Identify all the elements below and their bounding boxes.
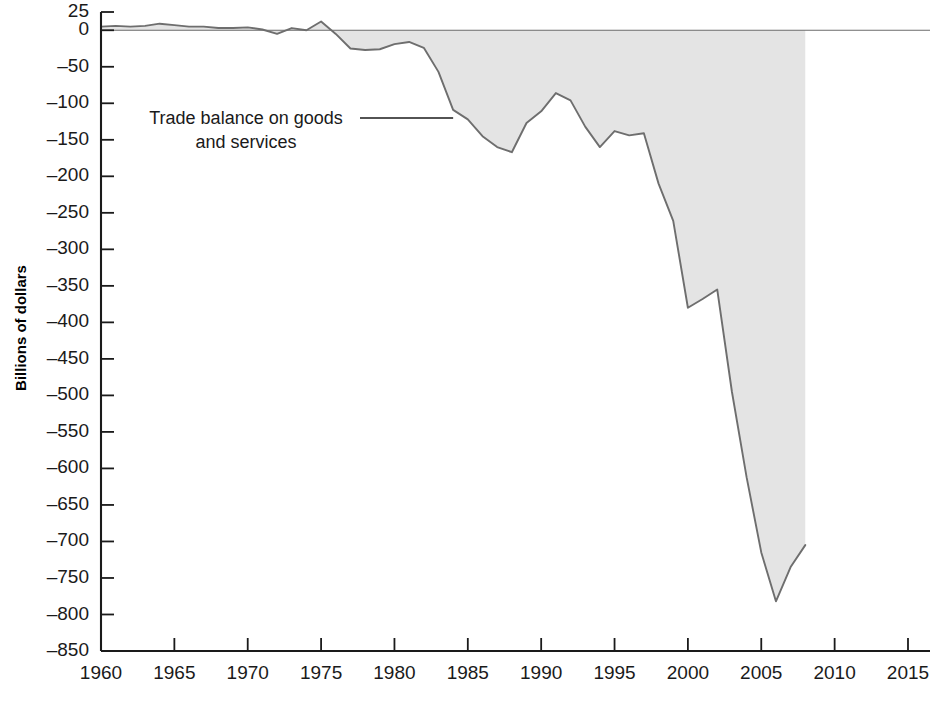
x-tick-label: 2015: [887, 662, 929, 683]
x-tick-label: 2000: [667, 662, 709, 683]
x-tick-label: 1965: [153, 662, 195, 683]
y-tick-label: 0: [78, 18, 89, 39]
y-tick-label: –750: [47, 566, 89, 587]
y-tick-label: –150: [47, 128, 89, 149]
annotation-line-2: and services: [195, 132, 296, 152]
x-tick-label: 1985: [447, 662, 489, 683]
trade-balance-area-chart: 250–50–100–150–200–250–300–350–400–450–5…: [0, 0, 942, 705]
annotation-line-1: Trade balance on goods: [149, 108, 342, 128]
y-tick-label: –50: [57, 55, 89, 76]
x-tick-label: 1970: [227, 662, 269, 683]
y-tick-label: –250: [47, 201, 89, 222]
y-tick-label: –800: [47, 603, 89, 624]
y-tick-label: –850: [47, 639, 89, 660]
y-tick-label: –500: [47, 383, 89, 404]
x-tick-label: 1960: [80, 662, 122, 683]
x-tick-label: 2005: [740, 662, 782, 683]
y-tick-label: –650: [47, 493, 89, 514]
y-tick-label: –600: [47, 456, 89, 477]
y-tick-label: –700: [47, 529, 89, 550]
y-tick-label: –100: [47, 91, 89, 112]
y-tick-label: –450: [47, 347, 89, 368]
x-tick-label: 1990: [520, 662, 562, 683]
y-tick-label: –200: [47, 164, 89, 185]
y-tick-label: –550: [47, 420, 89, 441]
y-tick-label: –300: [47, 237, 89, 258]
chart-container: 250–50–100–150–200–250–300–350–400–450–5…: [0, 0, 942, 705]
x-tick-label: 1975: [300, 662, 342, 683]
x-tick-label: 1980: [373, 662, 415, 683]
x-tick-label: 2010: [813, 662, 855, 683]
x-tick-label: 1995: [593, 662, 635, 683]
y-tick-label: –350: [47, 274, 89, 295]
y-tick-label: –400: [47, 310, 89, 331]
y-axis-title: Billions of dollars: [12, 265, 29, 391]
